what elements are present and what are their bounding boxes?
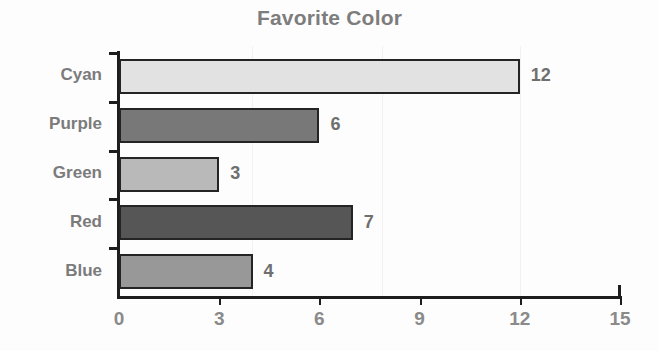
x-tick-label: 0: [94, 308, 144, 330]
bar-value-green: 3: [230, 163, 240, 184]
bar-green[interactable]: [119, 157, 219, 192]
bar-blue[interactable]: [119, 254, 253, 289]
bar-value-purple: 6: [330, 114, 340, 135]
x-tick-mark: [620, 296, 622, 305]
category-label-cyan: Cyan: [0, 65, 102, 85]
bar-red[interactable]: [119, 205, 353, 240]
y-tick-mark: [109, 150, 118, 153]
x-tick-mark: [520, 296, 522, 305]
bar-value-blue: 4: [264, 261, 274, 282]
y-tick-mark: [109, 198, 118, 201]
x-tick-label: 15: [595, 308, 645, 330]
x-tick-mark: [319, 296, 321, 305]
x-tick-mark: [219, 296, 221, 305]
x-tick-label: 12: [495, 308, 545, 330]
x-tick-label: 3: [194, 308, 244, 330]
category-label-red: Red: [0, 212, 102, 232]
bar-value-cyan: 12: [531, 65, 551, 86]
y-tick-mark: [109, 247, 118, 250]
y-tick-mark: [109, 101, 118, 104]
chart-title: Favorite Color: [0, 6, 659, 30]
category-label-purple: Purple: [0, 114, 102, 134]
x-tick-mark: [420, 296, 422, 305]
y-tick-mark: [109, 52, 118, 55]
x-tick-label: 6: [294, 308, 344, 330]
bar-purple[interactable]: [119, 108, 319, 143]
bar-chart: Favorite Color CyanPurpleGreenRedBlue 12…: [0, 0, 659, 351]
bar-cyan[interactable]: [119, 59, 520, 94]
category-label-blue: Blue: [0, 261, 102, 281]
x-tick-label: 9: [395, 308, 445, 330]
category-label-green: Green: [0, 163, 102, 183]
bar-value-red: 7: [364, 212, 374, 233]
